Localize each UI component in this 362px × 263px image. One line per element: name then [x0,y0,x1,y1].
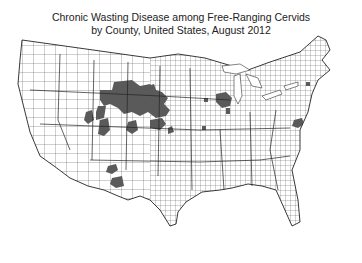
us-county-map [0,0,362,263]
us-landmass [0,30,362,230]
